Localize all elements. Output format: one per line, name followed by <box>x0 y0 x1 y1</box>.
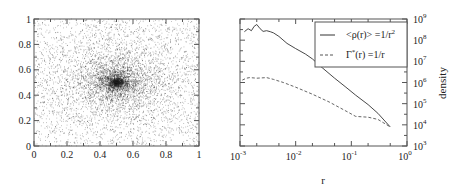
svg-text:108: 108 <box>413 33 427 46</box>
svg-text:0: 0 <box>32 149 37 160</box>
svg-text:105: 105 <box>413 97 427 110</box>
svg-text:0.4: 0.4 <box>19 90 32 101</box>
figure: 00.20.40.60.81 00.20.40.60.81 10-310-210… <box>0 0 454 193</box>
svg-text:103: 103 <box>413 139 427 152</box>
svg-text:109: 109 <box>413 12 427 25</box>
svg-text:0.4: 0.4 <box>94 149 107 160</box>
y-axis-label: density <box>436 67 448 99</box>
svg-text:10-2: 10-2 <box>286 149 302 162</box>
svg-text:10-3: 10-3 <box>230 149 246 162</box>
density-panel: 10-310-210-1100 103104105106107108109 <ρ… <box>230 12 448 186</box>
scatter-x-tick-labels: 00.20.40.60.81 <box>32 149 202 160</box>
gamma-series-line <box>242 78 390 127</box>
x-axis-label: r <box>321 174 325 186</box>
svg-text:0: 0 <box>26 141 31 152</box>
density-x-tick-labels: 10-310-210-1100 <box>230 149 412 162</box>
svg-text:0.6: 0.6 <box>19 64 32 75</box>
svg-text:0.8: 0.8 <box>160 149 173 160</box>
density-y-tick-labels: 103104105106107108109 <box>413 12 427 152</box>
svg-text:1: 1 <box>26 14 31 25</box>
svg-text:1: 1 <box>197 149 202 160</box>
svg-text:0.2: 0.2 <box>61 149 74 160</box>
svg-text:100: 100 <box>398 149 412 162</box>
svg-text:0.2: 0.2 <box>19 115 32 126</box>
legend-label-rho: <ρ(r)> =1/r2 <box>346 28 396 41</box>
scatter-panel: 00.20.40.60.81 00.20.40.60.81 <box>19 14 202 161</box>
svg-text:0.8: 0.8 <box>19 39 32 50</box>
svg-text:10-1: 10-1 <box>341 149 357 162</box>
svg-text:0.6: 0.6 <box>127 149 140 160</box>
svg-text:107: 107 <box>413 54 427 67</box>
scatter-y-tick-labels: 00.20.40.60.81 <box>19 14 32 152</box>
svg-text:104: 104 <box>413 118 427 131</box>
legend: <ρ(r)> =1/r2 Γ*(r) =1/r <box>315 22 407 67</box>
scatter-points <box>34 19 200 146</box>
svg-text:106: 106 <box>413 76 427 89</box>
